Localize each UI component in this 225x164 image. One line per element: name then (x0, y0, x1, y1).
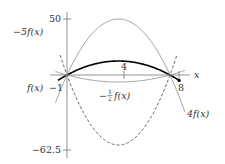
x-tick-label-8: 8 (178, 82, 184, 93)
label-neg-half-f: − 1 2 f(x) (99, 88, 131, 102)
curves (56, 19, 185, 145)
label-f: f(x) (26, 82, 44, 93)
x-tick-label-4: 4 (121, 61, 127, 72)
function-transform-chart: 50 −62.5 x 4 8 −1 f(x) 4f(x) −5f(x) − 1 … (0, 0, 225, 164)
y-tick-label-50: 50 (49, 13, 61, 24)
x-axis-label: x (194, 69, 200, 80)
label-neg5f: −5f(x) (13, 26, 44, 37)
neg-half-num: 1 (108, 88, 112, 95)
y-tick-label-neg62-5: −62.5 (32, 144, 61, 155)
neg-half-f: f(x) (113, 90, 131, 101)
label-4f: 4f(x) (186, 108, 210, 119)
neg-half-sign: − (99, 90, 107, 101)
x-tick-label-neg1: −1 (49, 82, 63, 93)
neg-half-den: 2 (108, 95, 112, 102)
